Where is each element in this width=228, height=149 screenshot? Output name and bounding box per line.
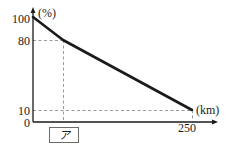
y-axis-arrowhead xyxy=(31,7,36,13)
x-tick-label-250: 250 xyxy=(178,122,196,134)
data-line xyxy=(33,17,192,110)
x-axis-unit-label: (km) xyxy=(196,104,219,116)
y-tick-label-100: 100 xyxy=(3,13,30,25)
blank-answer-box: ア xyxy=(49,127,79,143)
origin-label-0: 0 xyxy=(3,117,30,129)
x-axis-arrowhead xyxy=(212,120,218,125)
y-tick-label-80: 80 xyxy=(3,35,30,47)
line-graph-figure: (%) (km) 100 80 10 0 250 ア xyxy=(0,0,228,149)
blank-answer-box-label: ア xyxy=(59,130,70,141)
y-axis-unit-label: (%) xyxy=(38,7,56,19)
